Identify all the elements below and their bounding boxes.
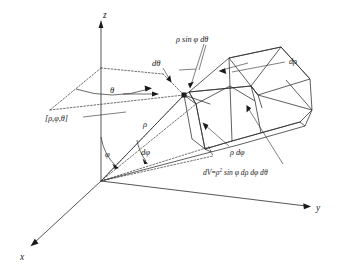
wedge-outer-top-cap xyxy=(229,47,310,95)
dtheta-label: dθ xyxy=(152,58,161,68)
dashed-theta-left-edge xyxy=(50,68,101,110)
wedge-interior-leader xyxy=(222,63,248,70)
wedge-bottom-left-tie xyxy=(205,149,211,152)
coordinate-point-label: [ρ,φ,θ] xyxy=(45,114,68,123)
dv-formula-label: dV=ρ2 sin φ dρ dφ dθ xyxy=(203,167,268,177)
wedge-front-face xyxy=(189,86,312,149)
spherical-coordinates-figure: z y x xyxy=(0,0,338,270)
z-axis-arrowhead xyxy=(99,20,104,28)
drho-label: dρ xyxy=(289,57,297,66)
dashed-phi-lower-ray xyxy=(101,156,213,181)
dphi-arc-arrowhead xyxy=(143,159,148,165)
drho-leader xyxy=(232,62,285,72)
wedge-bottom-edge xyxy=(205,122,300,149)
wedge-top-face xyxy=(189,47,281,92)
dtheta-pointer-line xyxy=(179,69,196,70)
rho-sin-phi-dtheta-arrowhead xyxy=(188,82,194,89)
theta-arc-arrowhead xyxy=(145,85,152,91)
theta-label: θ xyxy=(110,85,115,95)
theta-secondary-arrowhead xyxy=(152,91,159,96)
wedge-rib-one xyxy=(229,58,232,141)
rho-sin-phi-dtheta-label: ρ sin φ dθ xyxy=(175,35,208,44)
dphi-label: dφ xyxy=(141,147,150,157)
rho-radial-line xyxy=(101,95,184,181)
wedge-top-inner-tie xyxy=(189,92,196,104)
wedge-bottom-secondary-edge xyxy=(211,126,305,152)
dv-formula-leader xyxy=(248,108,283,164)
dashed-construction-upper xyxy=(50,68,184,110)
figure-canvas: z y x xyxy=(0,0,338,270)
dv-formula-rest: sin φ dρ dφ dθ xyxy=(222,168,268,177)
dashed-dtheta-closing-edge xyxy=(163,74,184,95)
dashed-rho-dphi-ray xyxy=(101,104,196,181)
y-axis-arrowhead xyxy=(303,203,311,209)
wedge-right-tie xyxy=(305,110,312,126)
dtheta-arrowhead xyxy=(166,75,171,82)
dv-formula-arrowhead xyxy=(247,105,252,112)
wedge-interior-arrowhead xyxy=(219,68,227,74)
z-axis-label: z xyxy=(102,10,107,20)
dashed-theta-lower-edge xyxy=(50,95,184,110)
rho-dphi-arrowhead xyxy=(203,123,209,131)
wedge-lower-radial-line xyxy=(101,152,211,181)
phi-label: φ xyxy=(105,149,110,159)
x-axis-line xyxy=(34,181,101,243)
wedge-rib-three xyxy=(258,95,262,108)
y-axis-line xyxy=(101,181,306,206)
x-axis-label: x xyxy=(19,252,25,262)
coordinate-label-leader xyxy=(83,112,126,117)
point-to-wedge-line xyxy=(184,95,210,104)
y-axis-label: y xyxy=(315,203,321,213)
wedge-upper-inner-edge xyxy=(196,86,230,104)
rho-dphi-leader xyxy=(205,125,229,146)
wedge-inner-near-face xyxy=(184,95,205,149)
rho-dphi-label: ρ dφ xyxy=(229,148,245,157)
leader-lines xyxy=(83,44,285,164)
rho-sin-phi-dtheta-leader xyxy=(191,44,204,85)
rho-label: ρ xyxy=(142,119,147,129)
dashed-theta-top-edge xyxy=(101,68,163,74)
wedge-bottom-right-tie xyxy=(300,122,305,126)
text-labels: ρ sin φ dθ dρ dθ θ φ dφ ρ [ρ,φ,θ] ρ dφ d… xyxy=(45,35,297,177)
